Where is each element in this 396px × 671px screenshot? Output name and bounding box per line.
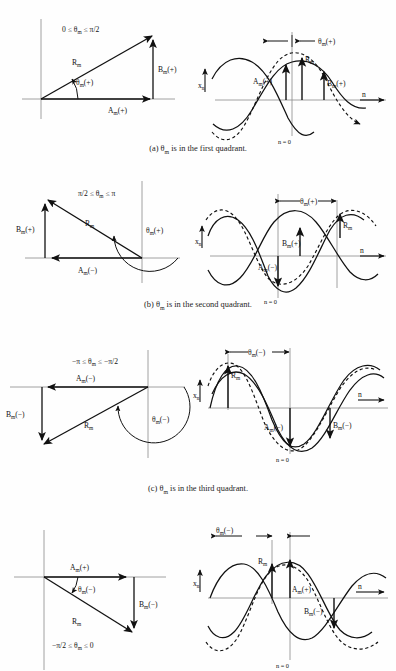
panel-b-vector-diagram: π/2 ≤ θm ≤ π Rm Am(−) Bm(+) θm(+) <box>16 181 180 283</box>
vector-R-b <box>48 200 142 258</box>
vector-R-label-d: Rm <box>72 617 82 627</box>
panel-d: Am(+) θm(−) Rm Bm(−) −π/2 ≤ θm ≤ 0 <box>0 520 396 671</box>
panel-c-graphics: −π ≤ θm ≤ −π/2 Am(−) Rm Bm(−) θm(−) <box>0 340 396 470</box>
panel-a-graphics: 0 ≤ θm ≤ π/2 Rm Am(+) Bm(+) θm(+) <box>0 14 396 142</box>
panel-d-wave-diagram: θm(−) Rm Am(+) Bm(−) xn n n = 0 <box>193 526 388 669</box>
vector-theta-label-a: θm(+) <box>76 78 94 88</box>
wave-y-axis-label-a: xn <box>198 81 205 91</box>
vector-B-label-a: Bm(+) <box>158 65 177 75</box>
wave-y-axis-label-b: xn <box>195 237 202 247</box>
wave-R-label-d: Rm <box>258 557 268 567</box>
panel-a-wave-diagram: θm(+) Rm Am(+) Bm(+) xn n n = 0 <box>198 32 386 145</box>
vector-R-label-a: Rm <box>72 58 82 68</box>
wave-B-label-c: Bm(−) <box>333 421 352 431</box>
wave-A-label-a: Am(+) <box>253 77 272 87</box>
wave-y-axis-label-d: xn <box>193 579 200 589</box>
panel-c-caption: (c) θm is in the third quadrant. <box>0 484 396 495</box>
panel-b-graphics: π/2 ≤ θm ≤ π Rm Am(−) Bm(+) θm(+) <box>0 178 396 306</box>
wave-x-axis-label-b: n <box>360 246 364 255</box>
figure-page: 0 ≤ θm ≤ π/2 Rm Am(+) Bm(+) θm(+) <box>0 0 396 671</box>
wave-origin-label-d: n = 0 <box>276 662 289 669</box>
panel-c-vector-diagram: −π ≤ θm ≤ −π/2 Am(−) Rm Bm(−) θm(−) <box>6 350 190 458</box>
wave-x-axis-label-a: n <box>362 90 366 99</box>
range-label-a: 0 ≤ θm ≤ π/2 <box>62 25 100 35</box>
wave-curve-A-a <box>212 58 314 135</box>
vector-theta-label-b: θm(+) <box>146 226 164 236</box>
vector-A-label-a: Am(+) <box>108 106 127 116</box>
vector-R-label-b: Rm <box>85 219 95 229</box>
wave-theta-label-d: θm(−) <box>216 526 234 536</box>
vector-B-label-b: Bm(+) <box>16 225 35 235</box>
wave-theta-label-a: θm(+) <box>318 37 336 47</box>
panel-d-vector-diagram: Am(+) θm(−) Rm Bm(−) −π/2 ≤ θm ≤ 0 <box>14 530 166 670</box>
wave-B-label-a: Bm(+) <box>327 79 346 89</box>
wave-curve-B-d <box>206 565 378 651</box>
wave-A-label-b: Am(−) <box>258 263 277 273</box>
vector-angle-arc-b <box>114 236 178 271</box>
wave-y-axis-label-c: xn <box>193 391 200 401</box>
vector-theta-label-d: θm(−) <box>78 585 96 595</box>
vector-A-label-c: Am(−) <box>76 374 95 384</box>
wave-B-label-d: Bm(−) <box>304 607 323 617</box>
wave-theta-label-c: θm(−) <box>248 348 266 358</box>
panel-a: 0 ≤ θm ≤ π/2 Rm Am(+) Bm(+) θm(+) <box>0 14 396 142</box>
range-label-b: π/2 ≤ θm ≤ π <box>78 189 116 199</box>
wave-x-axis-label-d: n <box>358 582 362 591</box>
wave-A-label-d: Am(+) <box>292 585 311 595</box>
wave-curve-R-c <box>212 372 384 451</box>
vector-theta-label-c: θm(−) <box>152 415 170 425</box>
vector-B-label-d: Bm(−) <box>139 600 158 610</box>
range-label-c: −π ≤ θm ≤ −π/2 <box>72 357 118 367</box>
wave-A-label-c: Am(−) <box>264 423 283 433</box>
wave-x-axis-label-c: n <box>358 390 362 399</box>
vector-B-label-c: Bm(−) <box>6 410 25 420</box>
vector-A-label-d: Am(+) <box>70 563 89 573</box>
panel-a-vector-diagram: 0 ≤ θm ≤ π/2 Rm Am(+) Bm(+) θm(+) <box>22 19 177 119</box>
vector-R-a <box>41 36 152 99</box>
vector-R-label-c: Rm <box>84 421 94 431</box>
vector-A-label-b: Am(−) <box>78 266 97 276</box>
panel-b-wave-diagram: θm(+) Rm Bm(+) Am(−) xn n n = 0 <box>195 194 386 305</box>
panel-c-wave-diagram: θm(−) Rm Am(−) Bm(−) xn n n = 0 <box>193 348 388 463</box>
panel-b: π/2 ≤ θm ≤ π Rm Am(−) Bm(+) θm(+) <box>0 178 396 306</box>
panel-c: −π ≤ θm ≤ −π/2 Am(−) Rm Bm(−) θm(−) <box>0 340 396 470</box>
wave-origin-label-c: n = 0 <box>276 456 289 463</box>
panel-d-graphics: Am(+) θm(−) Rm Bm(−) −π/2 ≤ θm ≤ 0 <box>0 520 396 671</box>
wave-theta-label-b: θm(+) <box>300 197 318 207</box>
panel-a-caption: (a) θm is in the first quadrant. <box>0 144 396 155</box>
wave-R-label-a: Rm <box>305 55 315 65</box>
range-label-d: −π/2 ≤ θm ≤ 0 <box>52 641 94 651</box>
wave-B-label-b: Bm(+) <box>282 239 301 249</box>
wave-R-label-b: Rm <box>343 221 353 231</box>
panel-b-caption: (b) θm is in the second quadrant. <box>0 300 396 311</box>
